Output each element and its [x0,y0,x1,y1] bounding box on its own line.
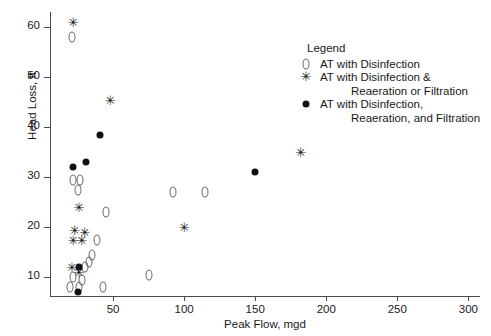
star-marker-icon: ✳ [105,93,116,106]
star-marker-icon: ✳ [68,16,79,29]
diamond-marker-icon [67,282,74,293]
diamond-marker-icon [100,282,107,293]
y-tick-mark [44,27,50,28]
y-tick-label: 20 [6,219,40,231]
y-tick-mark [44,227,50,228]
diamond-marker-icon [102,207,109,218]
y-tick-mark [44,77,50,78]
filled-circle-marker-icon [74,289,81,296]
filled-circle-marker-icon [70,164,77,171]
star-marker-icon: ✳ [76,233,87,246]
diamond-marker-icon [145,269,152,280]
legend-entry-label: Reaeration or Filtration [320,85,487,99]
diamond-marker-icon [303,58,310,69]
diamond-marker-icon [169,187,176,198]
x-tick-mark [468,296,469,301]
y-axis-title: Head Loss, ft [26,26,38,186]
y-tick-label: 10 [6,269,40,281]
x-tick-label: 50 [93,303,133,315]
legend-entry: ✳AT with Disinfection &Reaeration or Fil… [305,71,487,98]
x-axis-line [50,296,480,297]
x-tick-label: 150 [235,303,275,315]
x-tick-label: 200 [306,303,346,315]
x-tick-mark [113,296,114,301]
x-tick-label: 100 [164,303,204,315]
legend-entry-label: Reaeration, and Filtration [320,112,487,126]
x-tick-mark [397,296,398,301]
x-tick-mark [326,296,327,301]
x-tick-mark [184,296,185,301]
x-tick-label: 250 [377,303,417,315]
star-marker-icon: ✳ [301,70,312,84]
legend: Legend AT with Disinfection✳AT with Disi… [305,42,487,125]
star-marker-icon: ✳ [74,201,85,214]
diamond-marker-icon [68,32,75,43]
scatter-chart-figure: 50100150200250300 102030405060 ✳✳✳✳✳✳✳✳✳… [0,0,491,336]
legend-entry-label: AT with Disinfection & [320,71,487,85]
legend-entry-label: AT with Disinfection, [320,98,487,112]
y-tick-mark [44,277,50,278]
filled-circle-marker-icon [303,101,310,108]
diamond-marker-icon [94,234,101,245]
filled-circle-marker-icon [97,131,104,138]
diamond-marker-icon [74,184,81,195]
legend-entry-label: AT with Disinfection [320,58,487,72]
legend-entry: AT with Disinfection [305,58,487,72]
diamond-marker-icon [202,187,209,198]
x-tick-mark [255,296,256,301]
legend-entries: AT with Disinfection✳AT with Disinfectio… [305,58,487,126]
filled-circle-marker-icon [83,159,90,166]
star-marker-icon: ✳ [179,221,190,234]
x-tick-label: 300 [448,303,488,315]
y-tick-mark [44,127,50,128]
legend-title: Legend [305,42,487,56]
x-axis-title: Peak Flow, mgd [50,318,480,330]
star-marker-icon: ✳ [295,146,306,159]
filled-circle-marker-icon [252,169,259,176]
legend-entry: AT with Disinfection,Reaeration, and Fil… [305,98,487,125]
filled-circle-marker-icon [75,264,82,271]
y-tick-mark [44,177,50,178]
